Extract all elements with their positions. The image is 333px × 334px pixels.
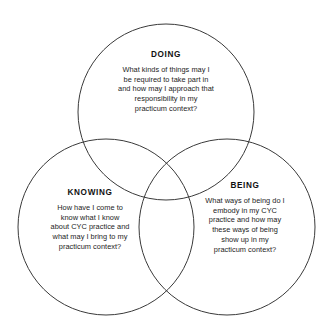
text-line: What ways of being do I <box>177 196 313 206</box>
lobe-doing-title: DOING <box>86 50 246 61</box>
lobe-being-title: BEING <box>177 181 313 192</box>
text-line: these ways of being <box>177 225 313 235</box>
text-line: be required to take part in <box>86 75 246 85</box>
lobe-being: BEING What ways of being do I embody in … <box>177 181 313 254</box>
lobe-being-body: What ways of being do I embody in my CYC… <box>177 196 313 255</box>
venn-diagram: DOING What kinds of things may I be requ… <box>0 0 333 334</box>
text-line: show up in my <box>177 235 313 245</box>
lobe-doing: DOING What kinds of things may I be requ… <box>86 50 246 114</box>
lobe-knowing: KNOWING How have I come to know what I k… <box>22 188 158 252</box>
lobe-knowing-body: How have I come to know what I know abou… <box>22 203 158 252</box>
text-line: responsibility in my <box>86 94 246 104</box>
text-line: practicum context? <box>22 242 158 252</box>
text-line: What kinds of things may I <box>86 65 246 75</box>
text-line: practicum context? <box>177 245 313 255</box>
lobe-knowing-title: KNOWING <box>22 188 158 199</box>
text-line: embody in my CYC <box>177 206 313 216</box>
text-line: what may I bring to my <box>22 232 158 242</box>
text-line: How have I come to <box>22 203 158 213</box>
text-line: and how may I approach that <box>86 84 246 94</box>
text-line: about CYC practice and <box>22 222 158 232</box>
text-line: practicum context? <box>86 104 246 114</box>
lobe-doing-body: What kinds of things may I be required t… <box>86 65 246 114</box>
text-line: know what I know <box>22 213 158 223</box>
text-line: practice and how may <box>177 215 313 225</box>
